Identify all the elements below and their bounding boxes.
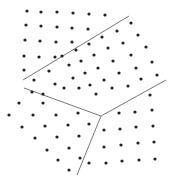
atom-dot (66, 123, 69, 126)
atom-dot (103, 13, 106, 16)
atom-dot (102, 128, 105, 131)
atom-dot (126, 84, 129, 87)
atom-dot (60, 54, 63, 57)
atom-dot (30, 90, 33, 93)
atom-dot (54, 113, 57, 116)
atom-dot (53, 55, 56, 58)
atom-dot (78, 156, 81, 159)
atom-dot (137, 158, 140, 161)
atom-dot (87, 42, 90, 45)
atom-dot (39, 10, 42, 13)
atom-dot (115, 29, 118, 32)
atom-dot (77, 134, 80, 137)
boundary-right (101, 80, 166, 116)
atom-dot (71, 76, 74, 79)
atom-dot (144, 45, 147, 48)
atom-dot (32, 78, 35, 81)
atom-dot (102, 145, 105, 148)
atom-dot (133, 110, 136, 113)
atom-dot (92, 53, 95, 56)
atom-dot (43, 124, 46, 127)
atom-dot (55, 10, 58, 13)
atom-dot (67, 63, 70, 66)
atom-dot (117, 71, 120, 74)
boundary-left (24, 88, 101, 116)
atom-dot (62, 86, 65, 89)
atom-dot (67, 168, 70, 171)
atom-dot (87, 12, 90, 15)
atom-dot (151, 124, 154, 127)
atom-dot (56, 158, 59, 161)
atom-dot (71, 11, 74, 14)
atom-dot (148, 93, 151, 96)
atom-dot (22, 54, 25, 57)
atom-dot (86, 27, 89, 30)
atom-dot (7, 113, 10, 116)
atom-dot (77, 86, 80, 89)
atom-dot (119, 143, 122, 146)
atom-dot (39, 24, 42, 27)
atom-dot (100, 35, 103, 38)
atom-dot (37, 55, 40, 58)
grain-middle (32, 21, 158, 95)
atom-dot (25, 9, 28, 12)
atom-dot (94, 92, 97, 95)
atom-dot (53, 82, 56, 85)
atom-dot (31, 113, 34, 116)
atom-dot (87, 122, 90, 125)
atom-dot (17, 101, 20, 104)
atom-dot (150, 60, 153, 63)
atom-dot (111, 59, 114, 62)
atom-dot (83, 71, 86, 74)
atom-dot (136, 141, 139, 144)
atom-dot (74, 48, 77, 51)
atom-dot (45, 148, 48, 151)
atom-dot (110, 86, 113, 89)
atom-dot (118, 127, 121, 130)
atom-dot (22, 68, 25, 71)
atom-dot (67, 146, 70, 149)
grain-bottom-left (7, 90, 90, 171)
atom-dot (104, 161, 107, 164)
atom-dot (134, 66, 137, 69)
atom-dot (96, 66, 99, 69)
atom-dot (136, 33, 139, 36)
atom-dot (33, 136, 36, 139)
atom-dot (24, 23, 27, 26)
atom-dot (20, 125, 23, 128)
atom-dot (38, 39, 41, 42)
grain-top-left (22, 9, 106, 71)
atom-dot (117, 111, 120, 114)
atom-dot (155, 73, 158, 76)
atom-dot (70, 26, 73, 29)
atom-dot (70, 40, 73, 43)
atom-dot (41, 92, 44, 95)
atom-dot (23, 38, 26, 41)
atom-dot (129, 21, 132, 24)
atom-dot (120, 159, 123, 162)
atom-dot (88, 83, 91, 86)
atom-dot (106, 46, 109, 49)
grain-boundary-diagram (0, 0, 173, 186)
grain-boundaries (23, 16, 166, 175)
atom-dot (121, 41, 124, 44)
atom-dot (134, 125, 137, 128)
atom-dot (150, 108, 153, 111)
atom-dot (41, 101, 44, 104)
atom-dot (55, 135, 58, 138)
atom-dot (129, 53, 132, 56)
atom-dot (55, 25, 58, 28)
atom-dot (152, 140, 155, 143)
atom-dot (87, 161, 90, 164)
atom-dot (47, 69, 50, 72)
atom-dot (79, 59, 82, 62)
atom-dot (102, 78, 105, 81)
atom-dot (139, 77, 142, 80)
boundary-upper (23, 16, 129, 80)
atom-dot (76, 111, 79, 114)
atom-dot (54, 40, 57, 43)
atom-dot (153, 157, 156, 160)
